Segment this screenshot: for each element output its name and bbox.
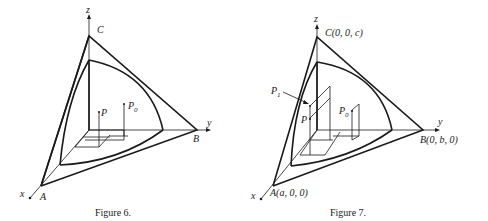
- point-p: [309, 118, 311, 120]
- y-arrow-icon: [435, 128, 440, 132]
- point-p1: [309, 105, 311, 107]
- p-base-box: [300, 130, 340, 155]
- vertex-c-label: C: [97, 24, 104, 35]
- p0-base-box: [85, 130, 124, 140]
- y-arrow-icon: [206, 128, 211, 132]
- vertex-b-label: B: [193, 133, 199, 144]
- z-arrow-icon: [315, 24, 319, 29]
- vertex-c-label: C(0, 0, c): [325, 27, 363, 39]
- vertex-a-label: A: [39, 191, 47, 202]
- point-p0-label: P0: [338, 105, 349, 119]
- point-p0: [123, 103, 125, 105]
- x-axis-end: [260, 198, 263, 201]
- x-label: x: [19, 188, 25, 199]
- figure-7-caption: Figure 7.: [330, 207, 366, 218]
- vertex-b-label: B(0, b, 0): [420, 134, 458, 146]
- point-p-label: P: [100, 107, 107, 118]
- diagram-canvas: z y x C B A P P0 Figure 6.: [0, 0, 488, 221]
- inner-curve-yz: [89, 60, 163, 130]
- figure-6: z y x C B A P P0 Figure 6.: [19, 4, 212, 218]
- point-p0: [351, 110, 353, 112]
- x-axis-end: [29, 197, 32, 200]
- x-label: x: [250, 190, 256, 201]
- figure-7: z y x C(0, 0, c) B(0, b, 0) A(a, 0, 0) P…: [250, 13, 458, 218]
- point-p1-label: P1: [270, 85, 281, 99]
- point-p: [98, 111, 100, 113]
- z-label: z: [85, 4, 90, 15]
- p0-box: [352, 104, 359, 140]
- y-label: y: [206, 117, 212, 128]
- p1-plane-upper: [310, 86, 330, 140]
- p-base-box: [75, 130, 110, 147]
- z-label: z: [313, 13, 318, 24]
- point-p0-label: P0: [127, 100, 138, 114]
- p1-arrow-icon: [303, 100, 309, 104]
- figure-6-caption: Figure 6.: [95, 207, 131, 218]
- y-label: y: [437, 116, 443, 127]
- point-p-label: P: [300, 114, 307, 125]
- inner-curve-yz: [317, 62, 392, 130]
- p-plane-line: [310, 98, 330, 118]
- vertex-a-label: A(a, 0, 0): [269, 187, 308, 199]
